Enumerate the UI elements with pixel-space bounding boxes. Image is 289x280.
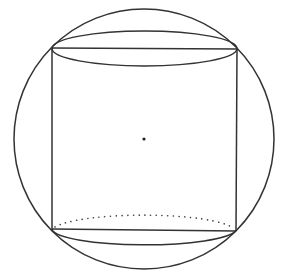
center-point	[142, 137, 145, 140]
cylinder-top-chord	[52, 48, 237, 49]
cylinder-right-side	[236, 49, 237, 231]
cylinder-bottom-chord	[52, 229, 236, 231]
inscribed-cylinder-diagram	[0, 0, 289, 280]
cylinder-bottom-back-arc	[55, 215, 233, 228]
cylinder-bottom-front-arc	[52, 230, 236, 245]
